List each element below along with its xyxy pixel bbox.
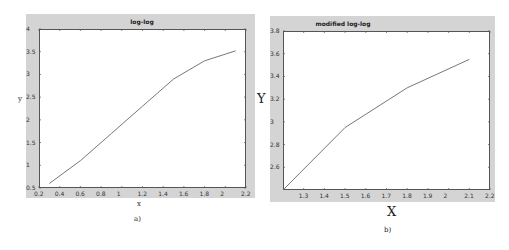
figure-a-line xyxy=(49,51,235,184)
plot-lines xyxy=(0,0,509,250)
figure-b-line xyxy=(283,59,469,190)
